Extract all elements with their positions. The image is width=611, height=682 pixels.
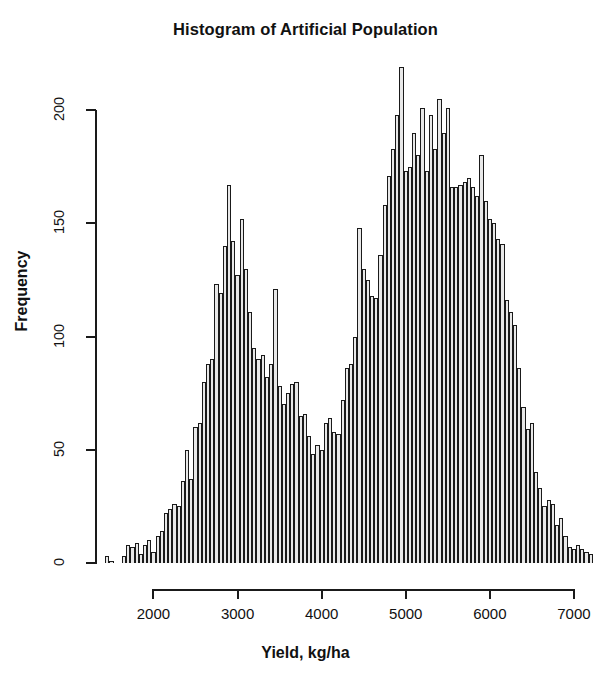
x-axis-line	[153, 589, 574, 591]
x-tick-mark	[152, 589, 154, 599]
x-tick-label: 2000	[123, 605, 183, 622]
x-axis: 200030004000500060007000 Yield, kg/ha	[0, 0, 611, 682]
x-tick-label: 3000	[208, 605, 268, 622]
x-tick-label: 5000	[376, 605, 436, 622]
x-tick-mark	[321, 589, 323, 599]
x-tick-mark	[489, 589, 491, 599]
x-tick-label: 7000	[544, 605, 604, 622]
x-tick-label: 4000	[292, 605, 352, 622]
x-tick-mark	[405, 589, 407, 599]
x-axis-title: Yield, kg/ha	[0, 644, 611, 662]
histogram-figure: Histogram of Artificial Population 05010…	[0, 0, 611, 682]
x-tick-mark	[573, 589, 575, 599]
x-tick-label: 6000	[460, 605, 520, 622]
x-tick-mark	[237, 589, 239, 599]
